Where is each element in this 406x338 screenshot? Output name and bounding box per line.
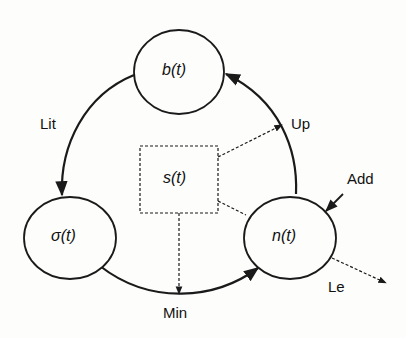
- add-arrow: [326, 194, 343, 211]
- lit-arrow: [62, 75, 134, 195]
- up-arrow: [226, 74, 296, 194]
- b-node-label: b(t): [162, 61, 186, 79]
- add-edge-label: Add: [347, 170, 374, 187]
- s-node-label: s(t): [163, 169, 186, 187]
- diagram-canvas: b(t) σ(t) n(t) s(t) Lit Up Add Le Min: [0, 0, 406, 338]
- lit-edge-label: Lit: [40, 115, 56, 132]
- le-edge-label: Le: [328, 278, 345, 295]
- n-node-label: n(t): [272, 227, 296, 245]
- s-to-up-arrow: [218, 125, 282, 157]
- up-edge-label: Up: [291, 115, 310, 132]
- min-edge-label: Min: [163, 304, 187, 321]
- diagram-graphics: [0, 0, 406, 338]
- sigma-node-label: σ(t): [51, 227, 76, 245]
- s-to-n-link: [218, 201, 246, 215]
